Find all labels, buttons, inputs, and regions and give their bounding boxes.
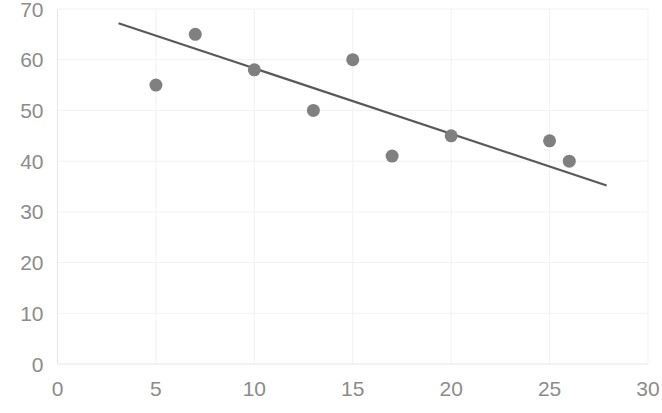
chart-canvas: 010203040506070051015202530 [0, 0, 662, 413]
x-axis-tick-label: 30 [636, 377, 659, 400]
data-point-marker [346, 53, 359, 66]
data-point-marker [149, 79, 162, 92]
data-point-marker [386, 150, 399, 163]
y-axis-tick-label: 70 [20, 0, 43, 21]
y-axis-tick-label: 40 [20, 150, 43, 173]
x-axis-tick-label: 10 [243, 377, 266, 400]
data-point-marker [445, 129, 458, 142]
data-point-marker [248, 63, 261, 76]
x-axis-tick-label: 5 [150, 377, 162, 400]
y-axis-tick-label: 20 [20, 251, 43, 274]
y-axis-tick-label: 10 [20, 302, 43, 325]
scatter-chart: 010203040506070051015202530 [0, 0, 662, 413]
y-axis-tick-label: 50 [20, 99, 43, 122]
x-axis-tick-label: 20 [439, 377, 462, 400]
x-axis-tick-label: 15 [341, 377, 364, 400]
data-point-marker [543, 134, 556, 147]
data-point-marker [307, 104, 320, 117]
y-axis-tick-label: 30 [20, 200, 43, 223]
y-axis-tick-label: 60 [20, 48, 43, 71]
y-axis-tick-labels: 010203040506070 [20, 0, 43, 376]
y-axis-tick-label: 0 [32, 353, 44, 376]
data-point-marker [563, 155, 576, 168]
data-points [149, 28, 575, 168]
x-axis-tick-label: 0 [52, 377, 64, 400]
data-point-marker [189, 28, 202, 41]
x-axis-tick-label: 25 [538, 377, 561, 400]
x-axis-tick-labels: 051015202530 [52, 377, 660, 400]
